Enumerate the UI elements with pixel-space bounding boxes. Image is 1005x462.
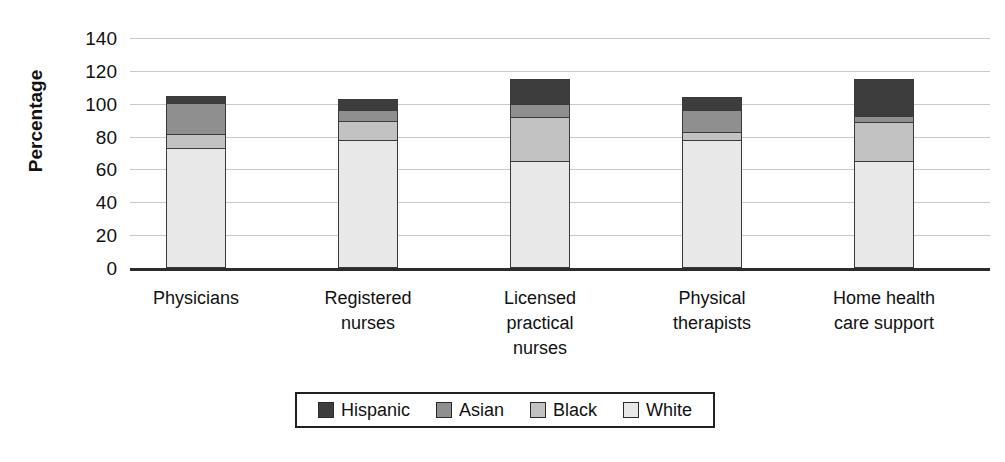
bar-segment-hispanic[interactable]: [855, 80, 913, 116]
legend-swatch-icon: [623, 402, 639, 418]
y-axis-tick-label: 20: [47, 226, 117, 245]
x-axis-category-label-line: Physical: [622, 286, 802, 311]
bar-segment-white[interactable]: [855, 161, 913, 267]
bar-segment-asian[interactable]: [683, 110, 741, 133]
x-axis-category-label-line: practical: [450, 311, 630, 336]
bar-segment-hispanic[interactable]: [683, 98, 741, 109]
x-axis-category-label-line: nurses: [450, 336, 630, 361]
x-axis-category-label-line: therapists: [622, 311, 802, 336]
y-axis-tick-label: 100: [47, 95, 117, 114]
x-axis-category-label-line: nurses: [278, 311, 458, 336]
y-axis-tick-label: 0: [47, 259, 117, 278]
stacked-bar[interactable]: [166, 96, 226, 269]
y-axis-tick-label: 40: [47, 193, 117, 212]
bar-group: [682, 38, 742, 268]
bar-segment-white[interactable]: [511, 161, 569, 267]
bar-segment-white[interactable]: [683, 140, 741, 267]
bar-group: [166, 38, 226, 268]
legend-item-asian[interactable]: Asian: [436, 400, 504, 421]
bar-segment-black[interactable]: [683, 132, 741, 140]
x-axis-category-label-line: Registered: [278, 286, 458, 311]
x-axis-category-label: Physicians: [106, 286, 286, 311]
bar-segment-asian[interactable]: [339, 110, 397, 121]
legend-label: White: [646, 400, 692, 421]
bar-segment-hispanic[interactable]: [339, 100, 397, 110]
legend-label: Asian: [459, 400, 504, 421]
bar-segment-black[interactable]: [167, 134, 225, 149]
y-axis-title: Percentage: [25, 21, 47, 221]
x-axis-category-label-line: care support: [794, 311, 974, 336]
stacked-bar[interactable]: [338, 99, 398, 268]
bar-segment-asian[interactable]: [167, 103, 225, 134]
legend-item-white[interactable]: White: [623, 400, 692, 421]
x-axis-category-label: Home healthcare support: [794, 286, 974, 336]
x-axis-category-label: Physicaltherapists: [622, 286, 802, 336]
bar-segment-asian[interactable]: [511, 104, 569, 117]
bar-segment-black[interactable]: [339, 121, 397, 140]
bar-segment-hispanic[interactable]: [511, 80, 569, 104]
y-axis-tick-label: 120: [47, 62, 117, 81]
plot-area: [130, 38, 990, 268]
legend-label: Black: [553, 400, 597, 421]
y-axis-tick-label: 140: [47, 29, 117, 48]
legend: HispanicAsianBlackWhite: [295, 392, 715, 428]
x-axis-category-label-line: Home health: [794, 286, 974, 311]
x-axis-line: [130, 268, 990, 271]
stacked-bar[interactable]: [682, 97, 742, 268]
bar-group: [338, 38, 398, 268]
bar-group: [854, 38, 914, 268]
x-axis-category-label: Registerednurses: [278, 286, 458, 336]
legend-swatch-icon: [530, 402, 546, 418]
stacked-bar-chart: Percentage 020406080100120140 Physicians…: [0, 0, 1005, 462]
x-axis-category-label-line: Licensed: [450, 286, 630, 311]
bar-segment-black[interactable]: [511, 117, 569, 161]
x-axis-category-label: Licensedpracticalnurses: [450, 286, 630, 361]
x-axis-category-label-line: Physicians: [106, 286, 286, 311]
legend-item-hispanic[interactable]: Hispanic: [318, 400, 410, 421]
y-axis-tick-label: 80: [47, 128, 117, 147]
bar-segment-white[interactable]: [167, 148, 225, 267]
legend-item-black[interactable]: Black: [530, 400, 597, 421]
y-axis-tick-label: 60: [47, 160, 117, 179]
legend-swatch-icon: [318, 402, 334, 418]
legend-swatch-icon: [436, 402, 452, 418]
stacked-bar[interactable]: [854, 79, 914, 268]
bar-segment-white[interactable]: [339, 140, 397, 267]
legend-label: Hispanic: [341, 400, 410, 421]
bar-segment-black[interactable]: [855, 122, 913, 161]
bar-group: [510, 38, 570, 268]
stacked-bar[interactable]: [510, 79, 570, 268]
